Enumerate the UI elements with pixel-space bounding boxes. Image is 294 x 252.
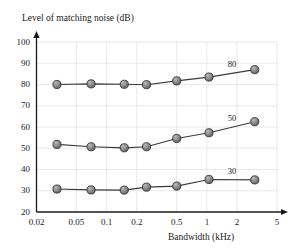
data-point-50-1 xyxy=(87,143,95,151)
data-point-30-2 xyxy=(120,186,128,194)
data-point-80-1 xyxy=(87,80,95,88)
data-point-30-1 xyxy=(87,186,95,194)
y-tick-label-60: 60 xyxy=(8,122,30,132)
data-point-30-6 xyxy=(251,176,259,184)
x-tick-label-0.2: 0.2 xyxy=(124,217,150,227)
x-tick-label-0.1: 0.1 xyxy=(94,217,120,227)
data-point-50-6 xyxy=(251,118,259,126)
data-point-30-5 xyxy=(205,175,213,183)
data-point-50-4 xyxy=(173,134,181,142)
data-point-50-5 xyxy=(205,129,213,137)
data-point-50-0 xyxy=(53,140,61,148)
data-point-30-0 xyxy=(53,185,61,193)
x-tick-label-1: 1 xyxy=(194,217,220,227)
y-tick-label-40: 40 xyxy=(8,164,30,174)
x-tick-label-0.02: 0.02 xyxy=(24,217,50,227)
y-tick-label-30: 30 xyxy=(8,185,30,195)
data-point-50-3 xyxy=(142,143,150,151)
series-line-50 xyxy=(57,122,255,148)
chart-container: Level of matching noise (dB) Bandwidth (… xyxy=(0,0,294,252)
y-tick-label-100: 100 xyxy=(8,37,30,47)
plot-area xyxy=(0,0,294,252)
y-tick-label-80: 80 xyxy=(8,79,30,89)
data-point-30-3 xyxy=(142,183,150,191)
data-point-80-0 xyxy=(53,80,61,88)
y-tick-label-50: 50 xyxy=(8,143,30,153)
series-label-50: 50 xyxy=(222,113,242,123)
data-point-80-2 xyxy=(120,80,128,88)
y-tick-label-90: 90 xyxy=(8,58,30,68)
data-point-80-3 xyxy=(142,81,150,89)
x-tick-label-0.05: 0.05 xyxy=(63,217,89,227)
x-tick-label-5: 5 xyxy=(264,217,290,227)
series-line-80 xyxy=(57,70,255,85)
series-label-80: 80 xyxy=(222,59,242,69)
x-tick-label-2: 2 xyxy=(224,217,250,227)
series-line-30 xyxy=(57,179,255,190)
data-point-50-2 xyxy=(120,144,128,152)
x-tick-label-0.5: 0.5 xyxy=(164,217,190,227)
data-point-80-4 xyxy=(173,77,181,85)
y-tick-label-70: 70 xyxy=(8,100,30,110)
data-point-30-4 xyxy=(173,182,181,190)
data-point-80-6 xyxy=(251,66,259,74)
y-tick-label-20: 20 xyxy=(8,207,30,217)
series-label-30: 30 xyxy=(222,166,242,176)
data-point-80-5 xyxy=(205,73,213,81)
